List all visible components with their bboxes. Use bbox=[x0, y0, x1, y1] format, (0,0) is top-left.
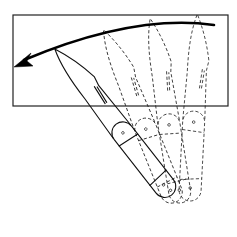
nail-nick bbox=[165, 70, 172, 90]
handle-bolster-line bbox=[119, 132, 138, 147]
pivot-pin-icon bbox=[169, 189, 172, 192]
handle-bolster-line bbox=[180, 177, 202, 180]
knife-rotation-diagram bbox=[0, 0, 237, 237]
knife-ghost-3 bbox=[179, 14, 212, 202]
knife-handle bbox=[179, 111, 206, 202]
knife-blade bbox=[48, 40, 131, 138]
handle-bolster-line bbox=[139, 132, 160, 142]
knife-blade bbox=[95, 24, 156, 131]
ghost-positions bbox=[95, 14, 211, 207]
rivet-icon bbox=[192, 121, 195, 124]
knife-blade bbox=[141, 16, 180, 124]
rivet-icon bbox=[144, 127, 147, 130]
motion-arrow-curve bbox=[24, 23, 214, 60]
handle-bolster-line bbox=[182, 130, 204, 133]
knife-blade bbox=[183, 14, 212, 121]
rivet-icon bbox=[168, 123, 171, 126]
nail-nick bbox=[199, 68, 204, 88]
rivet-icon bbox=[121, 131, 125, 135]
knife-solid bbox=[48, 40, 181, 202]
arrowhead-icon bbox=[14, 53, 33, 67]
knife-ghost-2 bbox=[141, 16, 193, 204]
handle-bolster-line bbox=[159, 131, 181, 136]
nail-nick bbox=[129, 76, 140, 96]
knife-open-position bbox=[48, 40, 181, 202]
